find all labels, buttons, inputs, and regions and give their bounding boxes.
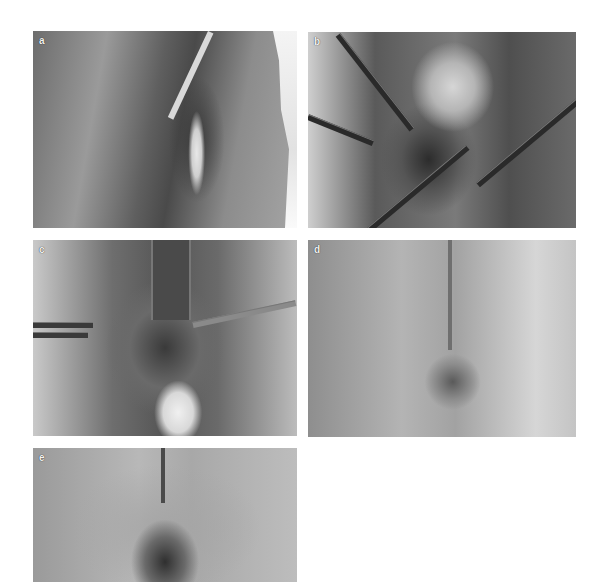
panel-e-photo: e <box>33 448 297 582</box>
panel-label-d: d <box>314 244 320 255</box>
panel-c-photo: c <box>33 240 297 436</box>
photo-d <box>308 240 576 437</box>
retractor-shape <box>151 240 191 320</box>
panel-label-b: b <box>314 36 320 47</box>
panel-d-photo: d <box>308 240 576 437</box>
panel-b-photo: b <box>308 32 576 228</box>
photo-e <box>33 448 297 582</box>
panel-label-c: c <box>39 244 45 255</box>
photo-a <box>33 31 297 228</box>
panel-label-a: a <box>39 35 45 46</box>
suture-line-shape <box>448 240 452 350</box>
instrument-shape <box>33 322 93 328</box>
panel-label-e: e <box>39 452 45 463</box>
scar-line-shape <box>161 448 165 503</box>
panel-a-photo: a <box>33 31 297 228</box>
instrument-shape <box>33 332 88 338</box>
